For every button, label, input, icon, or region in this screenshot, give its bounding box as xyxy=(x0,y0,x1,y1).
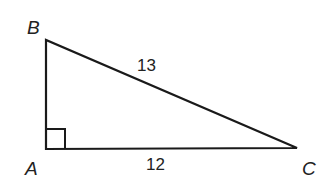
side-label-ac: 12 xyxy=(146,155,165,174)
vertex-label-b: B xyxy=(27,17,40,38)
triangle-abc xyxy=(46,40,297,149)
side-label-bc: 13 xyxy=(137,56,156,75)
triangle-svg: B A C 13 12 xyxy=(0,0,329,185)
vertex-label-a: A xyxy=(24,158,38,179)
triangle-diagram: B A C 13 12 xyxy=(0,0,329,185)
right-angle-marker xyxy=(46,129,65,149)
vertex-label-c: C xyxy=(302,158,316,179)
